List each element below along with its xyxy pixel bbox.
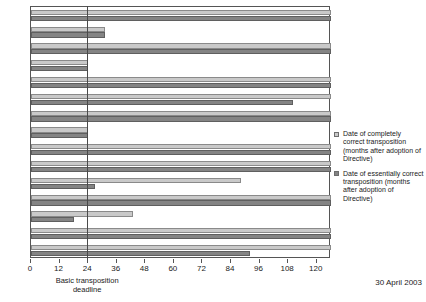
bar-group-nl — [31, 209, 329, 226]
bar-f-series2 — [31, 100, 293, 105]
date-annotation: 30 April 2003 — [375, 278, 422, 287]
x-axis-tick-108 — [287, 259, 288, 263]
bar-group-i — [31, 158, 329, 175]
bar-fin-series2 — [31, 116, 331, 121]
deadline-caption-line1: Basic transposition — [27, 276, 147, 285]
x-axis-tick-label-60: 60 — [158, 264, 188, 273]
x-axis-tick-60 — [173, 259, 174, 263]
deadline-caption: Basic transposition deadline — [27, 276, 147, 294]
bar-gb-series1 — [31, 127, 88, 132]
bar-group-d — [31, 41, 329, 58]
bar-p-series2 — [31, 234, 331, 239]
bar-nl-series2 — [31, 217, 74, 222]
x-axis-tick-label-96: 96 — [244, 264, 274, 273]
bar-group-gr — [31, 141, 329, 158]
legend-item-1: Date of completely correct transposition… — [334, 130, 424, 164]
bar-irl-series2 — [31, 184, 95, 189]
bar-i-series2 — [31, 167, 331, 172]
bar-f-series1 — [31, 94, 331, 99]
bar-s-series2 — [31, 251, 250, 256]
bar-group-f — [31, 91, 329, 108]
bar-irl-series1 — [31, 178, 241, 183]
bar-group-b — [31, 24, 329, 41]
bar-chart: ABDDKEFFINGBGRIIRLLUXNLPS 01224364860728… — [0, 0, 426, 302]
bar-i-series1 — [31, 161, 331, 166]
x-axis-tick-label-12: 12 — [44, 264, 74, 273]
bar-a-series2 — [31, 16, 331, 21]
bar-b-series1 — [31, 27, 105, 32]
bar-group-s — [31, 242, 329, 259]
bar-e-series2 — [31, 83, 331, 88]
bar-group-irl — [31, 175, 329, 192]
legend-swatch-1 — [334, 132, 339, 137]
x-axis-tick-label-120: 120 — [301, 264, 331, 273]
x-axis-tick-36 — [116, 259, 117, 263]
x-axis-tick-12 — [59, 259, 60, 263]
x-axis-tick-label-36: 36 — [101, 264, 131, 273]
x-axis-tick-label-84: 84 — [215, 264, 245, 273]
bars-container — [31, 7, 329, 257]
x-axis-tick-96 — [259, 259, 260, 263]
x-axis-tick-120 — [316, 259, 317, 263]
bar-d-series2 — [31, 49, 331, 54]
deadline-caption-line2: deadline — [27, 285, 147, 294]
plot-area — [30, 6, 330, 258]
legend-swatch-2 — [334, 171, 339, 176]
bar-nl-series1 — [31, 211, 133, 216]
bar-gr-series2 — [31, 150, 331, 155]
deadline-reference-line — [87, 6, 88, 259]
bar-lux-series1 — [31, 195, 331, 200]
chart-legend: Date of completely correct transposition… — [334, 130, 424, 209]
bar-group-e — [31, 74, 329, 91]
x-axis-tick-0 — [30, 259, 31, 263]
bar-gb-series2 — [31, 133, 88, 138]
bar-group-fin — [31, 108, 329, 125]
x-axis-tick-72 — [201, 259, 202, 263]
bar-group-p — [31, 225, 329, 242]
bar-d-series1 — [31, 43, 331, 48]
x-axis-tick-label-24: 24 — [72, 264, 102, 273]
bar-a-series1 — [31, 10, 331, 15]
x-axis-tick-label-72: 72 — [186, 264, 216, 273]
bar-s-series1 — [31, 245, 331, 250]
bar-p-series1 — [31, 228, 331, 233]
bar-e-series1 — [31, 77, 331, 82]
x-axis-tick-24 — [87, 259, 88, 263]
bar-lux-series2 — [31, 200, 331, 205]
legend-item-2: Date of essentially correct transpositio… — [334, 170, 424, 204]
bar-group-gb — [31, 125, 329, 142]
legend-label-1: Date of completely correct transposition… — [343, 130, 421, 162]
x-axis-tick-48 — [144, 259, 145, 263]
x-axis-tick-84 — [230, 259, 231, 263]
bar-group-a — [31, 7, 329, 24]
bar-dk-series2 — [31, 66, 88, 71]
bar-group-lux — [31, 192, 329, 209]
x-axis-tick-label-48: 48 — [129, 264, 159, 273]
x-axis-tick-label-0: 0 — [15, 264, 45, 273]
bar-dk-series1 — [31, 60, 88, 65]
bar-b-series2 — [31, 32, 105, 37]
bar-gr-series1 — [31, 144, 331, 149]
x-axis-tick-label-108: 108 — [272, 264, 302, 273]
bar-fin-series1 — [31, 111, 331, 116]
bar-group-dk — [31, 57, 329, 74]
legend-label-2: Date of essentially correct transpositio… — [343, 170, 424, 202]
